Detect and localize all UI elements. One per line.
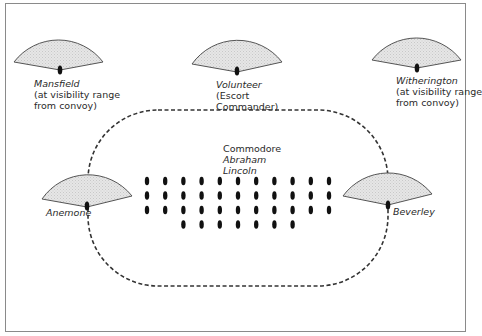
- merchant-ship-icon: [327, 177, 331, 186]
- label-anemone: Anemone: [46, 207, 91, 218]
- label-commodore: Commodore Abraham Lincoln: [223, 143, 281, 176]
- merchant-ship-icon: [218, 206, 222, 215]
- merchant-ship-icon: [236, 177, 240, 186]
- ship-icon: [415, 64, 420, 73]
- escort-sector-beverley: [343, 173, 432, 210]
- escort-sector-anemone: [42, 175, 132, 211]
- merchant-ship-icon: [145, 191, 149, 200]
- merchant-ship-icon: [218, 177, 222, 186]
- convoy-ships: [145, 177, 331, 229]
- merchant-ship-icon: [145, 206, 149, 215]
- merchant-ship-icon: [199, 220, 203, 229]
- merchant-ship-icon: [290, 177, 294, 186]
- escort-sector-witherington: [372, 38, 461, 73]
- merchant-ship-icon: [199, 177, 203, 186]
- merchant-ship-icon: [218, 191, 222, 200]
- merchant-ship-icon: [290, 191, 294, 200]
- merchant-ship-icon: [163, 206, 167, 215]
- merchant-ship-icon: [254, 177, 258, 186]
- merchant-ship-icon: [254, 191, 258, 200]
- merchant-ship-icon: [290, 206, 294, 215]
- label-witherington: Witherington (at visibility range from c…: [396, 75, 482, 108]
- merchant-ship-icon: [272, 206, 276, 215]
- merchant-ship-icon: [181, 206, 185, 215]
- merchant-ship-icon: [218, 220, 222, 229]
- label-beverley: Beverley: [393, 206, 435, 217]
- merchant-ship-icon: [254, 220, 258, 229]
- merchant-ship-icon: [272, 191, 276, 200]
- merchant-ship-icon: [327, 206, 331, 215]
- merchant-ship-icon: [309, 177, 313, 186]
- merchant-ship-icon: [199, 191, 203, 200]
- escort-sector-volunteer: [192, 40, 282, 75]
- merchant-ship-icon: [199, 206, 203, 215]
- ship-icon: [58, 66, 63, 75]
- merchant-ship-icon: [163, 191, 167, 200]
- merchant-ship-icon: [327, 191, 331, 200]
- escort-sector-mansfield: [14, 40, 103, 75]
- label-volunteer: Volunteer (Escort Commander): [216, 79, 278, 112]
- merchant-ship-icon: [309, 206, 313, 215]
- merchant-ship-icon: [309, 191, 313, 200]
- merchant-ship-icon: [181, 177, 185, 186]
- merchant-ship-icon: [290, 220, 294, 229]
- merchant-ship-icon: [236, 220, 240, 229]
- merchant-ship-icon: [163, 177, 167, 186]
- merchant-ship-icon: [272, 220, 276, 229]
- merchant-ship-icon: [181, 220, 185, 229]
- merchant-ship-icon: [145, 177, 149, 186]
- ship-icon: [386, 201, 391, 210]
- label-mansfield: Mansfield (at visibility range from conv…: [34, 78, 120, 111]
- merchant-ship-icon: [181, 191, 185, 200]
- merchant-ship-icon: [254, 206, 258, 215]
- merchant-ship-icon: [236, 206, 240, 215]
- ship-icon: [235, 67, 240, 76]
- merchant-ship-icon: [272, 177, 276, 186]
- merchant-ship-icon: [236, 191, 240, 200]
